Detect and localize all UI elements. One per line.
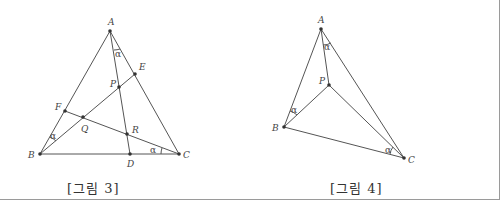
segment-be: [40, 74, 135, 154]
label-a4: A: [317, 15, 325, 25]
triangle-abc: [40, 31, 179, 154]
label-a: A: [107, 17, 115, 27]
alpha-b4: α: [291, 105, 297, 115]
alpha-a: α: [115, 49, 121, 59]
figure-4-points: [282, 27, 406, 160]
label-c: C: [183, 150, 190, 160]
label-b4: B: [271, 123, 279, 133]
figure-3-caption: [그림 3]: [67, 178, 120, 197]
alpha-a4: α: [324, 42, 330, 52]
alpha-c4: α: [385, 145, 391, 155]
label-p4: P: [318, 76, 326, 86]
figure-3-points: [38, 29, 181, 156]
figure-4-caption: [그림 4]: [330, 178, 383, 197]
triangle-abc-4: [284, 29, 404, 158]
label-d: D: [126, 159, 134, 169]
geometry-diagrams: A B C D E F P Q R α α α A P B C α α α: [0, 0, 503, 207]
alpha-c: α: [150, 145, 156, 155]
alpha-b: α: [50, 131, 56, 141]
label-b: B: [27, 150, 35, 160]
figure-3-labels: A B C D E F P Q R α α α: [27, 17, 190, 169]
label-c4: C: [408, 155, 415, 165]
label-q: Q: [81, 124, 89, 134]
label-e: E: [138, 62, 146, 72]
figure-4-lines: [284, 29, 404, 158]
angle-arc-c: [161, 148, 162, 154]
figure-3-lines: [40, 31, 179, 154]
label-p: P: [109, 79, 117, 89]
label-r: R: [131, 125, 139, 135]
label-f: F: [54, 102, 62, 112]
